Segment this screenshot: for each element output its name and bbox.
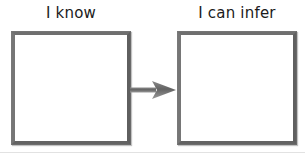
label-i-can-infer: I can infer (175, 2, 299, 24)
arrow-right-icon (130, 78, 176, 102)
scan-artifact-line (0, 152, 305, 153)
arrow-right-glyph (130, 78, 176, 102)
column-i-can-infer: I can infer (175, 0, 299, 151)
graphic-organizer-canvas: I know I can infer (0, 0, 305, 165)
column-i-know: I know (9, 0, 133, 151)
label-i-know: I know (9, 2, 133, 24)
box-i-know[interactable] (11, 31, 131, 145)
box-i-can-infer[interactable] (177, 31, 297, 145)
